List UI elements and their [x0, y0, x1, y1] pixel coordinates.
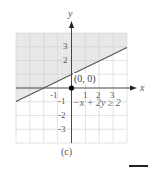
- inequality-graph: [0, 0, 148, 171]
- x-axis-label: x: [140, 82, 144, 93]
- divider-rule: [129, 165, 148, 167]
- origin-point: [69, 85, 74, 90]
- y-tick-2: 2: [63, 55, 68, 65]
- y-tick-neg3: -3: [58, 124, 66, 134]
- y-tick-neg2: -2: [58, 110, 66, 120]
- y-tick-neg1: -1: [58, 96, 66, 106]
- inequality-label: −x + 2y ≥ 2: [73, 97, 121, 108]
- y-axis-arrow-icon: [69, 21, 74, 28]
- figure-caption: (c): [61, 146, 72, 157]
- x-tick-neg1: -1: [50, 90, 58, 100]
- x-axis-arrow-icon: [130, 86, 137, 91]
- y-axis-label: y: [68, 8, 72, 19]
- point-label: (0, 0): [73, 73, 97, 84]
- y-tick-3: 3: [63, 41, 68, 51]
